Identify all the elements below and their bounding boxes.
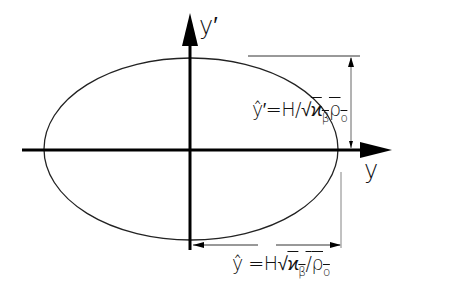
formula-eq: =H [243,252,278,274]
kappa-subscript: β [298,265,305,279]
dim-arrow-down-icon [349,141,353,148]
formula-eq: =H/ [266,98,301,120]
phase-space-diagram [0,0,460,299]
sqrt-symbol: √ [278,252,288,274]
rho-symbol: ρ [311,252,323,274]
rho-subscript: o [323,265,330,279]
y-amplitude-formula: ŷ =H√ϰβ/ρo [232,252,330,275]
y-prime-axis-label: y′ [199,12,218,40]
dim-arrow-right-icon [330,242,341,248]
rho-subscript: o [341,111,348,125]
rho-symbol: ρ [329,98,341,120]
kappa-symbol: ϰ [311,98,322,120]
radicand: ϰβ/ρo [287,252,329,274]
y-axis-label: y [364,156,378,184]
dim-arrow-left-icon [193,242,204,248]
sqrt-symbol: √ [301,98,311,120]
formula-lhs: ŷ [232,252,243,274]
y-prime-amplitude-formula: ŷ′=H/√ϰβρo [252,98,347,121]
formula-lhs: ŷ′ [252,98,266,120]
dim-arrow-up-icon [348,57,354,67]
kappa-subscript: β [322,111,329,125]
y-prime-axis-arrowhead-icon [182,13,198,46]
kappa-symbol: ϰ [287,252,298,274]
radicand: ϰβρo [311,98,348,120]
